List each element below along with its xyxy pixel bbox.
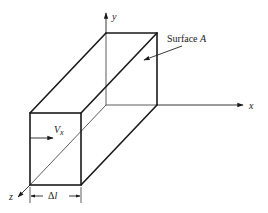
z-axis-label: z <box>8 191 13 202</box>
hidden-edges <box>106 33 157 105</box>
y-axis-label: y <box>111 11 117 22</box>
prism-diagram: y x z Surface A Vx Δl <box>0 0 268 213</box>
length-label: Δl <box>48 190 57 201</box>
surface-a-label: Surface A <box>167 33 207 44</box>
longitudinal-edges <box>30 33 157 185</box>
x-axis-label: x <box>248 100 254 111</box>
velocity-label: Vx <box>54 124 64 137</box>
back-face-surface-a <box>106 33 157 105</box>
z-axis <box>18 105 106 197</box>
surface-a-leader-arrow <box>144 46 182 60</box>
